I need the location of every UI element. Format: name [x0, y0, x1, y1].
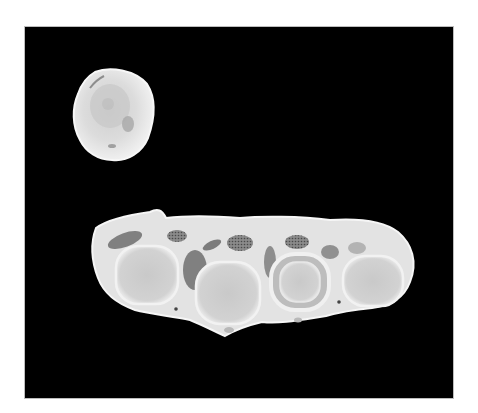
round-structure-4 [343, 256, 403, 306]
elongated-specimen [92, 210, 413, 336]
small-round-specimen [74, 69, 154, 160]
round-structure-1 [116, 246, 178, 304]
round-structure-2 [196, 262, 260, 324]
specimen-photo [0, 0, 478, 413]
round-structure-3 [271, 254, 329, 310]
